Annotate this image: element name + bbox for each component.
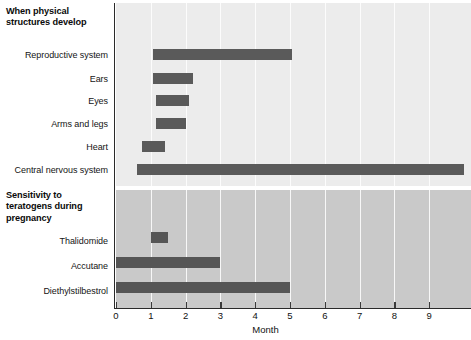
gridline-month-5 [290, 190, 291, 308]
panel-physical-structures [116, 3, 471, 186]
bar-accutane [116, 257, 220, 268]
section-title-physical-structures: When physical structures develop [6, 6, 86, 29]
gridline-month-3 [220, 3, 221, 186]
x-tick-7 [360, 302, 361, 308]
bar-reproductive-system [153, 49, 292, 60]
x-tick-label-5: 5 [287, 310, 292, 321]
x-tick-3 [220, 302, 221, 308]
row-label-central-nervous-system: Central nervous system [15, 165, 108, 175]
row-label-thalidomide: Thalidomide [60, 236, 108, 246]
x-tick-9 [429, 302, 430, 308]
x-axis-title-text: Month [252, 324, 278, 335]
x-tick-label-6: 6 [322, 310, 327, 321]
bar-arms-and-legs [156, 118, 186, 129]
gridline-month-5 [290, 3, 291, 186]
row-label-ears: Ears [90, 74, 108, 84]
section-title-teratogen-sensitivity: Sensitivity to teratogens during pregnan… [6, 190, 82, 224]
x-tick-5 [290, 302, 291, 308]
x-tick-label-3: 3 [218, 310, 223, 321]
gridline-month-9 [429, 3, 430, 186]
gridline-month-6 [325, 190, 326, 308]
x-tick-6 [325, 302, 326, 308]
bar-ears [153, 73, 193, 84]
bar-eyes [156, 95, 189, 106]
x-axis-title: Month [0, 324, 471, 335]
gridline-month-6 [325, 3, 326, 186]
x-tick-label-0: 0 [113, 310, 118, 321]
x-tick-8 [394, 302, 395, 308]
x-tick-label-9: 9 [427, 310, 432, 321]
bar-heart [142, 141, 165, 152]
gridline-month-1 [151, 3, 152, 186]
x-tick-2 [186, 302, 187, 308]
prenatal-development-chart: When physical structures develop Sensiti… [0, 0, 471, 340]
row-label-eyes: Eyes [88, 96, 108, 106]
x-tick-4 [255, 302, 256, 308]
y-axis-rule [114, 3, 115, 308]
bar-thalidomide [151, 232, 168, 243]
gridline-month-4 [255, 3, 256, 186]
gridline-month-8 [394, 190, 395, 308]
x-tick-label-1: 1 [148, 310, 153, 321]
gridline-month-7 [360, 3, 361, 186]
panel-teratogen-sensitivity [116, 190, 471, 308]
row-label-reproductive-system: Reproductive system [25, 50, 108, 60]
bar-central-nervous-system [137, 164, 464, 175]
gridline-month-9 [429, 190, 430, 308]
x-tick-0 [116, 302, 117, 308]
x-tick-1 [151, 302, 152, 308]
row-label-arms-and-legs: Arms and legs [51, 119, 108, 129]
x-tick-label-2: 2 [183, 310, 188, 321]
row-label-column: When physical structures develop Sensiti… [0, 0, 114, 340]
x-tick-label-4: 4 [253, 310, 258, 321]
x-tick-label-8: 8 [392, 310, 397, 321]
gridline-month-7 [360, 190, 361, 308]
x-tick-label-7: 7 [357, 310, 362, 321]
gridline-month-8 [394, 3, 395, 186]
bar-diethylstilbestrol [116, 282, 290, 293]
row-label-heart: Heart [86, 142, 108, 152]
row-label-accutane: Accutane [71, 261, 108, 271]
row-label-diethylstilbestrol: Diethylstilbestrol [43, 286, 108, 296]
